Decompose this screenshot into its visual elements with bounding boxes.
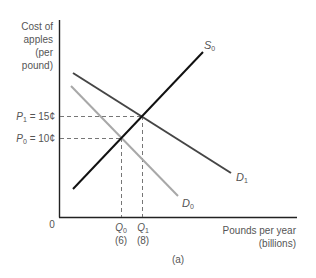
s0-label: S0: [204, 39, 215, 52]
q0-tick-label: Q0: [115, 222, 127, 234]
origin-label: 0: [49, 219, 55, 230]
d0-label: D0: [182, 197, 194, 210]
d0-curve: [71, 86, 178, 196]
q1-value-label: (8): [137, 235, 149, 246]
svg-text:(per: (per: [35, 47, 53, 58]
svg-text:pound): pound): [22, 60, 53, 71]
d1-label: D1: [236, 171, 248, 184]
y-axis-label: Cost of apples (per pound): [21, 21, 53, 71]
svg-text:apples: apples: [24, 34, 53, 45]
d1-curve: [73, 73, 231, 173]
x-axis-label: Pounds per year (billions): [223, 225, 297, 249]
figure-caption: (a): [172, 254, 184, 265]
svg-text:(billions): (billions): [259, 238, 296, 249]
s0-curve: [73, 52, 203, 189]
svg-text:Cost of: Cost of: [21, 21, 53, 32]
supply-demand-chart: Cost of apples (per pound) P1 = 15¢ P0 =…: [0, 0, 316, 278]
q1-tick-label: Q1: [137, 222, 149, 234]
svg-text:Pounds per year: Pounds per year: [223, 225, 297, 236]
p0-tick-label: P0 = 10¢: [16, 133, 55, 145]
p1-tick-label: P1 = 15¢: [16, 111, 55, 123]
q0-value-label: (6): [115, 235, 127, 246]
